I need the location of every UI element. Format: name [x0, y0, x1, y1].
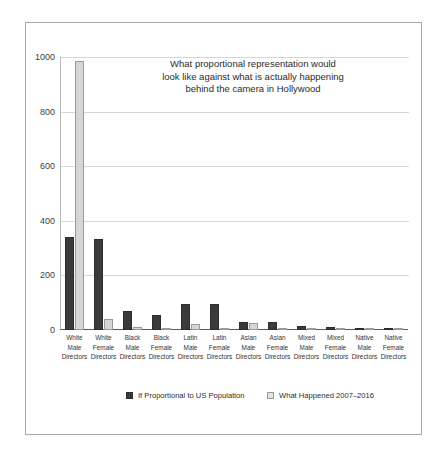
- bar-proportional[interactable]: [384, 328, 393, 330]
- legend-swatch-light-icon: [267, 392, 274, 399]
- bar-proportional[interactable]: [65, 237, 74, 330]
- x-tick-label-line: Male: [350, 343, 379, 353]
- x-tick-label-line: Directors: [379, 352, 408, 362]
- x-tick-label-line: Male: [60, 343, 89, 353]
- bar-happened[interactable]: [162, 328, 171, 330]
- bar-proportional[interactable]: [297, 326, 306, 330]
- x-tick-label: LatinFemaleDirectors: [205, 333, 234, 362]
- bar-happened[interactable]: [336, 328, 345, 330]
- x-tick-label-line: Native: [379, 333, 408, 343]
- bar-happened[interactable]: [278, 328, 287, 330]
- bar-group: [118, 57, 147, 330]
- x-tick-label-line: Directors: [234, 352, 263, 362]
- x-tick-label: WhiteMaleDirectors: [60, 333, 89, 362]
- bar-proportional[interactable]: [181, 304, 190, 330]
- x-tick-label-line: White: [60, 333, 89, 343]
- x-tick-label: LatinMaleDirectors: [176, 333, 205, 362]
- y-tick-label: 600: [21, 161, 55, 171]
- x-tick-label-line: Mixed: [321, 333, 350, 343]
- bar-group: [292, 57, 321, 330]
- bar-proportional[interactable]: [355, 328, 364, 330]
- bar-happened[interactable]: [104, 319, 113, 330]
- x-tick-label-line: Female: [379, 343, 408, 353]
- bar-group: [60, 57, 89, 330]
- x-tick-label-line: Black: [118, 333, 147, 343]
- x-tick-label-line: Female: [89, 343, 118, 353]
- legend-swatch-dark-icon: [126, 392, 133, 399]
- x-tick-label-line: Directors: [292, 352, 321, 362]
- x-tick-label-line: Male: [118, 343, 147, 353]
- x-tick-label-line: Latin: [205, 333, 234, 343]
- bar-proportional[interactable]: [210, 304, 219, 330]
- x-tick-label-line: Black: [147, 333, 176, 343]
- x-tick-label-line: Male: [176, 343, 205, 353]
- bars-layer: [60, 57, 408, 330]
- bar-group: [205, 57, 234, 330]
- x-tick-label: NativeFemaleDirectors: [379, 333, 408, 362]
- x-tick-label-line: Directors: [350, 352, 379, 362]
- x-tick-label-line: Asian: [234, 333, 263, 343]
- x-tick-label-line: Directors: [321, 352, 350, 362]
- x-tick-label-line: Male: [234, 343, 263, 353]
- bar-happened[interactable]: [191, 324, 200, 330]
- x-tick-label-line: White: [89, 333, 118, 343]
- bar-happened[interactable]: [394, 328, 403, 330]
- bar-happened[interactable]: [307, 328, 316, 330]
- bar-group: [176, 57, 205, 330]
- bar-proportional[interactable]: [239, 322, 248, 330]
- legend-item-proportional: If Proportional to US Population: [126, 391, 244, 400]
- x-tick-label: NativeMaleDirectors: [350, 333, 379, 362]
- x-tick-label: MixedFemaleDirectors: [321, 333, 350, 362]
- x-axis-tick-labels: WhiteMaleDirectorsWhiteFemaleDirectorsBl…: [60, 333, 408, 375]
- bar-happened[interactable]: [75, 61, 84, 330]
- legend-label-proportional: If Proportional to US Population: [138, 391, 244, 400]
- bar-group: [321, 57, 350, 330]
- x-tick-label-line: Directors: [147, 352, 176, 362]
- x-tick-label-line: Latin: [176, 333, 205, 343]
- bar-proportional[interactable]: [123, 311, 132, 330]
- legend-item-happened: What Happened 2007–2016: [267, 391, 374, 400]
- bar-group: [379, 57, 408, 330]
- legend-label-happened: What Happened 2007–2016: [279, 391, 374, 400]
- x-tick-label: MixedMaleDirectors: [292, 333, 321, 362]
- x-tick-label-line: Female: [205, 343, 234, 353]
- chart-legend: If Proportional to US Population What Ha…: [60, 391, 408, 407]
- bar-proportional[interactable]: [326, 327, 335, 330]
- bar-group: [147, 57, 176, 330]
- x-tick-label-line: Directors: [60, 352, 89, 362]
- x-tick-label-line: Female: [321, 343, 350, 353]
- x-tick-label-line: Native: [350, 333, 379, 343]
- x-tick-label: WhiteFemaleDirectors: [89, 333, 118, 362]
- y-tick-label: 800: [21, 107, 55, 117]
- x-tick-label-line: Female: [147, 343, 176, 353]
- x-tick-label-line: Directors: [205, 352, 234, 362]
- bar-group: [350, 57, 379, 330]
- y-axis-tick-labels: 1000 800 600 400 200 0: [19, 57, 55, 330]
- bar-group: [263, 57, 292, 330]
- x-tick-label: BlackMaleDirectors: [118, 333, 147, 362]
- bar-group: [89, 57, 118, 330]
- x-tick-label-line: Asian: [263, 333, 292, 343]
- x-tick-label-line: Directors: [176, 352, 205, 362]
- y-tick-label: 200: [21, 270, 55, 280]
- bar-happened[interactable]: [249, 323, 258, 330]
- bar-proportional[interactable]: [94, 239, 103, 330]
- bar-happened[interactable]: [365, 328, 374, 330]
- x-tick-label-line: Directors: [89, 352, 118, 362]
- x-tick-label-line: Directors: [263, 352, 292, 362]
- bar-group: [234, 57, 263, 330]
- x-tick-label-line: Female: [263, 343, 292, 353]
- chart-figure: 1000 800 600 400 200 0 What proportional…: [0, 0, 446, 462]
- x-tick-label-line: Mixed: [292, 333, 321, 343]
- bar-happened[interactable]: [220, 328, 229, 330]
- bar-proportional[interactable]: [152, 315, 161, 330]
- x-tick-label-line: Directors: [118, 352, 147, 362]
- bar-happened[interactable]: [133, 327, 142, 330]
- y-tick-label: 1000: [21, 52, 55, 62]
- x-tick-label: AsianMaleDirectors: [234, 333, 263, 362]
- y-tick-label: 400: [21, 216, 55, 226]
- x-tick-label: BlackFemaleDirectors: [147, 333, 176, 362]
- x-tick-label: AsianFemaleDirectors: [263, 333, 292, 362]
- bar-proportional[interactable]: [268, 322, 277, 330]
- x-tick-label-line: Male: [292, 343, 321, 353]
